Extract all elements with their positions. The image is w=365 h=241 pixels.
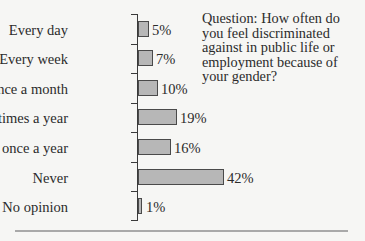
bar [138, 109, 177, 125]
axis-tick [131, 162, 138, 163]
bar-row-never: Never 42% [0, 168, 300, 188]
value-label: 5% [152, 21, 171, 39]
axis-tick [131, 132, 138, 133]
axis-tick [131, 44, 138, 45]
value-label: 7% [156, 50, 175, 68]
question-annotation: Question: How often do you feel discrimi… [202, 11, 362, 84]
bar [138, 21, 149, 37]
value-label: 42% [227, 169, 254, 187]
bar-row-no-opinion: No opinion 1% [0, 197, 300, 217]
category-label: Never [33, 169, 68, 187]
axis-tick [131, 220, 138, 221]
bar [138, 139, 171, 155]
value-label: 10% [161, 80, 188, 98]
value-label: 1% [146, 198, 165, 216]
category-label: A few times a year [0, 109, 68, 127]
axis-tick [131, 14, 138, 15]
bar-chart: Every day 5% Every week 7% About once a … [0, 0, 365, 241]
axis-tick [131, 191, 138, 192]
category-label: Less than once a year [0, 139, 68, 157]
bar-row-less-than-once-a-year: Less than once a year 16% [0, 138, 300, 158]
category-label: About once a month [0, 80, 68, 98]
bar [138, 198, 142, 214]
bar-row-a-few-times-a-year: A few times a year 19% [0, 108, 300, 128]
axis-tick [131, 103, 138, 104]
category-label: Every day [9, 21, 68, 39]
bottom-rule [15, 230, 348, 232]
bar [138, 169, 224, 185]
value-label: 19% [180, 109, 207, 127]
category-label: No opinion [2, 198, 68, 216]
value-label: 16% [174, 139, 201, 157]
bar [138, 50, 153, 66]
axis-tick [131, 73, 138, 74]
bar [138, 80, 158, 96]
category-label: Every week [0, 50, 68, 68]
